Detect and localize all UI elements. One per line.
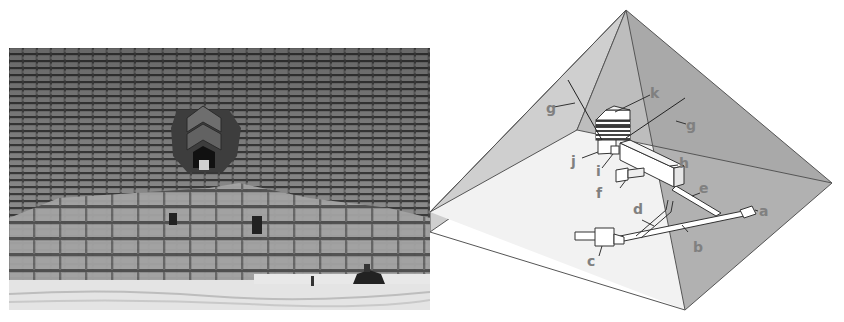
pyramid-entrance <box>171 106 241 172</box>
label-j: j <box>570 153 576 169</box>
label-k: k <box>650 85 660 101</box>
diagram-rendering: a b c d e f g g h i j k <box>430 0 844 322</box>
label-h: h <box>679 155 689 171</box>
pyramid-diagram: a b c d e f g g h i j k <box>430 0 844 322</box>
subterranean-chamber <box>595 228 614 246</box>
queens-chamber <box>616 168 628 182</box>
label-d: d <box>633 201 643 217</box>
antechamber <box>611 146 619 154</box>
label-a: a <box>759 203 768 219</box>
pyramid-entrance-photo <box>9 48 430 310</box>
label-g-right: g <box>686 117 696 133</box>
photo-rendering <box>9 48 430 310</box>
label-c: c <box>587 253 595 269</box>
label-g-left: g <box>546 100 556 116</box>
label-e: e <box>699 180 709 196</box>
label-i: i <box>596 163 601 179</box>
label-b: b <box>693 239 703 255</box>
label-f: f <box>596 185 603 201</box>
